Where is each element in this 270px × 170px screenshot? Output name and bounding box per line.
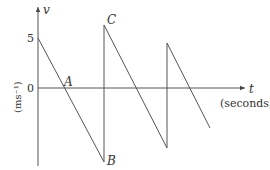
point-a-label: A xyxy=(63,75,73,89)
point-c-label: C xyxy=(107,13,116,27)
v-unit-label: (ms⁻¹) xyxy=(12,81,23,113)
y-tick-5: 5 xyxy=(27,32,34,45)
origin-label: 0 xyxy=(27,82,34,95)
t-axis-label: t xyxy=(249,82,254,96)
velocity-time-graph: v 5 0 (ms⁻¹) A B C t (seconds) xyxy=(0,0,270,170)
velocity-curve xyxy=(38,25,210,162)
v-axis-label: v xyxy=(43,3,50,17)
point-b-label: B xyxy=(106,154,116,168)
t-unit-label: (seconds) xyxy=(220,97,270,110)
